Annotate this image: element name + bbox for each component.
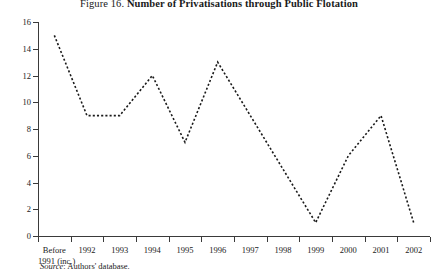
source-label: Source [40, 261, 63, 271]
privatisations-line [54, 35, 413, 222]
source-note: Source: Authors' database. [40, 261, 130, 271]
figure-container: Figure 16. Number of Privatisations thro… [0, 0, 438, 272]
data-series-line [0, 0, 438, 272]
source-text: : Authors' database. [63, 261, 129, 271]
